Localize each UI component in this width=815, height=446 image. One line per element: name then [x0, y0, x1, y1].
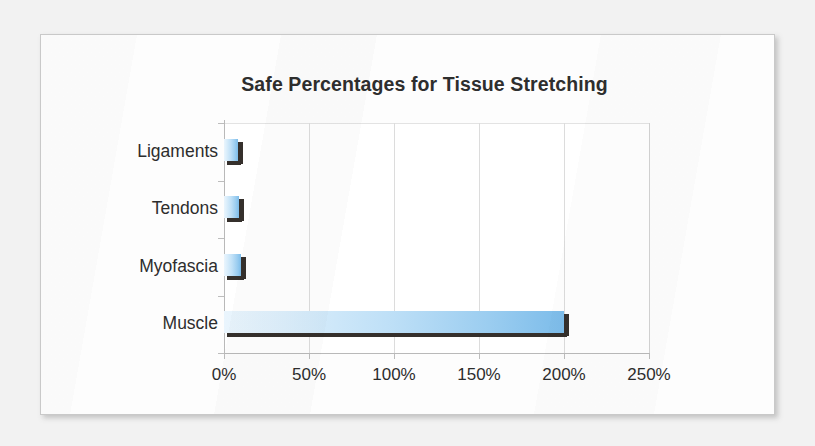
- x-axis-tick: [224, 354, 225, 359]
- bar-fill: [224, 311, 564, 333]
- y-axis-tick: [218, 353, 224, 354]
- y-axis-tick: [218, 123, 224, 124]
- bar-shadow-bottom: [227, 218, 242, 222]
- gridline: [649, 123, 650, 353]
- bar-fill: [224, 254, 241, 276]
- x-axis-tick: [479, 354, 480, 359]
- y-axis-tick: [218, 296, 224, 297]
- x-axis-label: 100%: [372, 365, 415, 385]
- bar-shadow-bottom: [227, 333, 567, 337]
- bar-ligaments: [224, 139, 244, 161]
- bar-tendons: [224, 196, 245, 218]
- x-axis-tick: [309, 354, 310, 359]
- x-axis-label: 250%: [627, 365, 670, 385]
- x-axis-tick: [564, 354, 565, 359]
- x-axis-label: 200%: [542, 365, 585, 385]
- bar-chart: Safe Percentages for Tissue Stretching 0…: [41, 35, 776, 416]
- x-axis-label: 150%: [457, 365, 500, 385]
- plot-top-border: [224, 123, 649, 124]
- bar-shadow-bottom: [227, 161, 241, 165]
- chart-title: Safe Percentages for Tissue Stretching: [41, 73, 776, 96]
- category-label-muscle: Muscle: [163, 315, 218, 333]
- category-label-myofascia: Myofascia: [139, 258, 218, 276]
- x-axis-tick: [649, 354, 650, 359]
- category-label-tendons: Tendons: [152, 200, 218, 218]
- bar-shadow-bottom: [227, 276, 244, 280]
- y-axis-tick: [218, 181, 224, 182]
- scanned-page-card: Safe Percentages for Tissue Stretching 0…: [40, 34, 775, 415]
- bar-myofascia: [224, 254, 247, 276]
- bar-muscle: [224, 311, 570, 333]
- x-axis-line: [224, 353, 650, 354]
- bar-fill: [224, 196, 239, 218]
- x-axis-tick: [394, 354, 395, 359]
- category-label-ligaments: Ligaments: [137, 143, 218, 161]
- x-axis-label: 0%: [212, 365, 237, 385]
- y-axis-tick: [218, 238, 224, 239]
- x-axis-label: 50%: [292, 365, 326, 385]
- bar-fill: [224, 139, 238, 161]
